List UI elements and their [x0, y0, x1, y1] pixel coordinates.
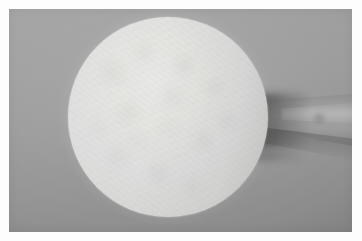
paper-border-top [0, 0, 362, 9]
paper-border-bottom [0, 232, 362, 241]
forearm-texture-spot [309, 112, 329, 124]
disc-directional-shading [68, 17, 268, 217]
paper-border-left [0, 0, 9, 241]
photo-canvas [9, 9, 352, 232]
paper-border-right [352, 0, 362, 241]
pale-circular-disc [68, 17, 268, 217]
photograph-frame: Close-up grayscale photograph of a large… [0, 0, 362, 241]
